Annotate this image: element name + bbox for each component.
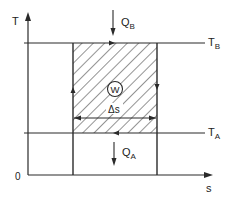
x-axis <box>28 172 213 178</box>
heat-out-label: QA <box>122 146 137 161</box>
y-axis-arrow-icon <box>25 12 31 21</box>
origin-label: 0 <box>15 171 21 182</box>
delta-s-label: Δs <box>108 104 120 115</box>
heat-in-label: QB <box>121 16 135 31</box>
heat-out-arrow-icon <box>112 158 117 166</box>
ts-diagram: Δs W QB QA TB TA T s 0 <box>0 0 232 201</box>
heat-out-arrow <box>112 142 117 166</box>
ta-label: TA <box>208 126 221 141</box>
x-axis-arrow-icon <box>204 172 213 178</box>
heat-in-arrow <box>111 10 116 36</box>
heat-in-arrow-icon <box>111 28 116 36</box>
y-axis-label: T <box>12 15 19 27</box>
work-label: W <box>111 84 120 95</box>
y-axis <box>25 12 31 175</box>
tb-label: TB <box>208 36 220 51</box>
x-axis-label: s <box>206 182 212 194</box>
delta-s-dimension <box>74 114 156 122</box>
